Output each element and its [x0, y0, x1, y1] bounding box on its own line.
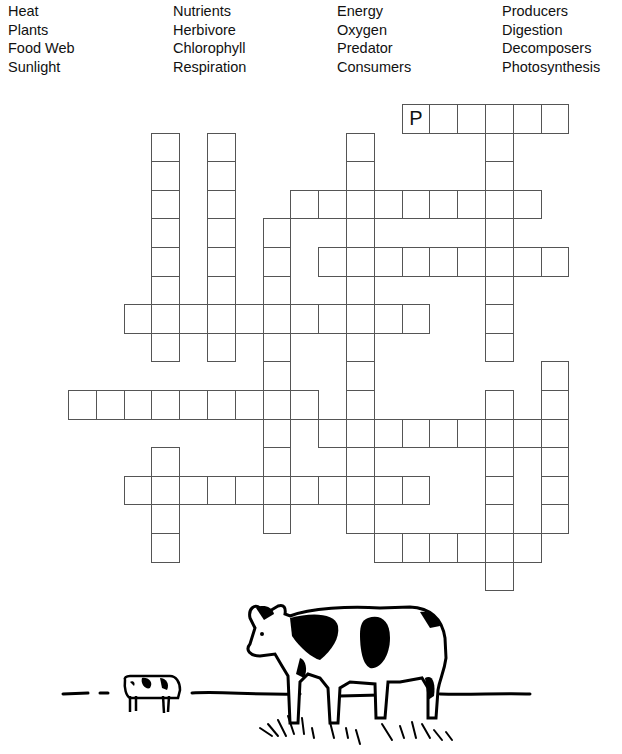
crossword-cell[interactable] — [263, 218, 292, 248]
crossword-cell[interactable] — [374, 476, 403, 506]
crossword-cell[interactable] — [290, 304, 319, 334]
crossword-cell[interactable] — [346, 276, 375, 306]
crossword-cell[interactable] — [402, 419, 431, 449]
crossword-cell[interactable] — [124, 304, 153, 334]
crossword-cell[interactable] — [374, 533, 403, 563]
crossword-cell[interactable] — [457, 190, 486, 220]
crossword-cell[interactable] — [402, 304, 431, 334]
crossword-cell[interactable] — [290, 476, 319, 506]
crossword-cell[interactable] — [235, 390, 264, 420]
crossword-cell[interactable] — [346, 504, 375, 534]
crossword-cell[interactable] — [402, 533, 431, 563]
crossword-cell[interactable] — [374, 190, 403, 220]
crossword-cell[interactable] — [263, 419, 292, 449]
crossword-cell[interactable] — [485, 133, 514, 163]
crossword-cell[interactable] — [151, 390, 180, 420]
crossword-cell[interactable] — [207, 247, 236, 277]
crossword-cell[interactable] — [402, 247, 431, 277]
crossword-cell[interactable] — [485, 533, 514, 563]
crossword-cell[interactable] — [346, 333, 375, 363]
crossword-cell[interactable] — [485, 504, 514, 534]
crossword-cell[interactable] — [485, 161, 514, 191]
crossword-cell[interactable] — [179, 390, 208, 420]
crossword-cell[interactable] — [263, 304, 292, 334]
crossword-cell[interactable] — [541, 247, 570, 277]
crossword-cell[interactable] — [485, 276, 514, 306]
crossword-cell[interactable] — [541, 504, 570, 534]
crossword-cell[interactable] — [318, 476, 347, 506]
crossword-cell[interactable] — [513, 104, 542, 134]
crossword-cell[interactable] — [346, 476, 375, 506]
crossword-cell[interactable] — [151, 276, 180, 306]
crossword-cell[interactable] — [457, 247, 486, 277]
crossword-cell[interactable] — [346, 133, 375, 163]
crossword-cell[interactable] — [457, 533, 486, 563]
crossword-cell[interactable] — [207, 476, 236, 506]
crossword-cell[interactable] — [374, 419, 403, 449]
crossword-cell[interactable] — [485, 476, 514, 506]
crossword-cell[interactable] — [513, 419, 542, 449]
crossword-cell[interactable] — [513, 247, 542, 277]
crossword-cell[interactable] — [263, 247, 292, 277]
crossword-cell[interactable] — [151, 476, 180, 506]
crossword-cell[interactable] — [151, 133, 180, 163]
crossword-cell[interactable] — [207, 218, 236, 248]
crossword-cell[interactable] — [346, 390, 375, 420]
crossword-cell[interactable] — [151, 447, 180, 477]
crossword-cell[interactable] — [485, 447, 514, 477]
crossword-cell[interactable] — [402, 190, 431, 220]
crossword-cell[interactable] — [513, 190, 542, 220]
crossword-cell[interactable] — [151, 190, 180, 220]
crossword-cell[interactable] — [263, 333, 292, 363]
crossword-cell[interactable] — [485, 390, 514, 420]
crossword-cell[interactable] — [263, 276, 292, 306]
crossword-cell[interactable] — [346, 190, 375, 220]
crossword-cell[interactable] — [235, 304, 264, 334]
crossword-cell[interactable] — [235, 476, 264, 506]
crossword-cell[interactable] — [151, 304, 180, 334]
crossword-cell[interactable] — [346, 247, 375, 277]
crossword-cell[interactable] — [457, 104, 486, 134]
crossword-cell[interactable] — [346, 447, 375, 477]
crossword-cell[interactable] — [151, 161, 180, 191]
crossword-cell[interactable] — [346, 419, 375, 449]
crossword-cell[interactable] — [207, 161, 236, 191]
crossword-cell[interactable] — [485, 304, 514, 334]
crossword-cell[interactable] — [318, 304, 347, 334]
crossword-cell[interactable] — [96, 390, 125, 420]
crossword-cell[interactable] — [124, 390, 153, 420]
crossword-cell[interactable] — [485, 247, 514, 277]
crossword-cell[interactable] — [207, 190, 236, 220]
crossword-cell[interactable] — [318, 190, 347, 220]
crossword-cell[interactable] — [429, 419, 458, 449]
crossword-cell[interactable] — [318, 419, 347, 449]
crossword-cell[interactable] — [541, 361, 570, 391]
crossword-cell[interactable] — [485, 419, 514, 449]
crossword-cell[interactable] — [124, 476, 153, 506]
crossword-cell[interactable] — [179, 304, 208, 334]
crossword-cell[interactable] — [513, 533, 542, 563]
crossword-cell[interactable] — [290, 190, 319, 220]
crossword-cell[interactable] — [263, 390, 292, 420]
crossword-cell[interactable] — [485, 333, 514, 363]
crossword-cell[interactable] — [263, 476, 292, 506]
crossword-cell[interactable] — [485, 218, 514, 248]
crossword-cell[interactable] — [151, 533, 180, 563]
crossword-cell[interactable] — [541, 104, 570, 134]
crossword-cell[interactable] — [207, 133, 236, 163]
crossword-cell[interactable] — [207, 390, 236, 420]
crossword-cell[interactable] — [374, 304, 403, 334]
crossword-cell[interactable] — [457, 419, 486, 449]
crossword-cell[interactable] — [541, 476, 570, 506]
crossword-cell[interactable] — [151, 333, 180, 363]
crossword-cell[interactable] — [263, 361, 292, 391]
crossword-cell[interactable] — [346, 361, 375, 391]
crossword-cell[interactable] — [318, 247, 347, 277]
crossword-cell[interactable] — [346, 161, 375, 191]
crossword-cell[interactable] — [402, 476, 431, 506]
crossword-cell[interactable] — [541, 447, 570, 477]
crossword-cell[interactable] — [346, 304, 375, 334]
crossword-cell[interactable] — [151, 218, 180, 248]
crossword-cell[interactable] — [290, 390, 319, 420]
crossword-cell[interactable] — [485, 104, 514, 134]
